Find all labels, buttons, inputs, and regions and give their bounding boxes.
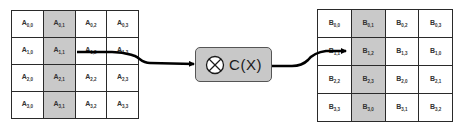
matrix-b-cell: B0,1	[351, 10, 385, 38]
cell-index: 0,1	[368, 23, 374, 28]
cell-index: 1,2	[90, 51, 96, 56]
matrix-b-cell: B1,3	[385, 38, 419, 66]
matrix-b-cell: B0,0	[318, 10, 352, 38]
cell-index: 1,3	[122, 51, 128, 56]
cell-index: 2,0	[27, 78, 33, 83]
cell-index: 1,3	[401, 51, 407, 56]
matrix-a-row: A2,0A2,1A2,2A2,3	[12, 65, 139, 92]
matrix-a-cell: A1,3	[107, 38, 139, 65]
matrix-b-cell: B2,0	[385, 66, 419, 94]
matrix-b-row: B0,0B0,1B0,2B0,3	[318, 10, 453, 38]
matrix-b-cell: B1,0	[419, 38, 453, 66]
cell-index: 0,3	[122, 24, 128, 29]
cell-index: 2,2	[334, 79, 340, 84]
cell-index: 3,1	[401, 107, 407, 112]
matrix-a-cell: A0,0	[12, 11, 44, 38]
matrix-a-row: A1,0A1,1A1,2A1,3	[12, 38, 139, 65]
cell-index: 0,1	[59, 24, 65, 29]
matrix-a: A0,0A0,1A0,2A0,3A1,0A1,1A1,2A1,3A2,0A2,1…	[11, 10, 139, 119]
cell-index: 1,2	[368, 51, 374, 56]
matrix-a-cell: A2,2	[75, 65, 107, 92]
cell-index: 1,0	[27, 51, 33, 56]
matrix-b-row: B2,2B2,3B2,0B2,1	[318, 66, 453, 94]
cell-index: 2,0	[401, 79, 407, 84]
operation-box: C(X)	[195, 47, 272, 82]
cell-index: 0,0	[27, 24, 33, 29]
matrix-b-cell: B2,3	[351, 66, 385, 94]
operation-label: C(X)	[229, 56, 262, 73]
matrix-a-row: A0,0A0,1A0,2A0,3	[12, 11, 139, 38]
matrix-b-cell: B2,2	[318, 66, 352, 94]
cell-index: 0,0	[334, 23, 340, 28]
matrix-a-cell: A3,3	[107, 92, 139, 119]
circled-times-icon	[205, 55, 225, 75]
cell-index: 2,3	[368, 79, 374, 84]
cell-index: 1,1	[334, 51, 340, 56]
cell-index: 3,2	[435, 107, 441, 112]
matrix-a-cell: A1,0	[12, 38, 44, 65]
cell-index: 3,0	[27, 105, 33, 110]
matrix-a-cell: A1,2	[75, 38, 107, 65]
matrix-b-cell: B2,1	[419, 66, 453, 94]
matrix-a-cell: A0,3	[107, 11, 139, 38]
cell-index: 0,3	[435, 23, 441, 28]
matrix-a-row: A3,0A3,1A3,2A3,3	[12, 92, 139, 119]
cell-index: 2,1	[435, 79, 441, 84]
matrix-b: B0,0B0,1B0,2B0,3B1,1B1,2B1,3B1,0B2,2B2,3…	[317, 9, 453, 122]
matrix-b-cell: B1,2	[351, 38, 385, 66]
cell-index: 2,2	[90, 78, 96, 83]
cell-index: 3,1	[59, 105, 65, 110]
matrix-a-cell: A3,1	[43, 92, 75, 119]
matrix-a-cell: A0,1	[43, 11, 75, 38]
matrix-b-row: B3,3B3,0B3,1B3,2	[318, 94, 453, 122]
cell-index: 1,0	[435, 51, 441, 56]
cell-index: 1,1	[59, 51, 65, 56]
matrix-b-cell: B3,2	[419, 94, 453, 122]
matrix-b-cell: B3,0	[351, 94, 385, 122]
matrix-a-cell: A2,3	[107, 65, 139, 92]
cell-index: 3,3	[334, 107, 340, 112]
cell-index: 2,1	[59, 78, 65, 83]
cell-index: 3,2	[90, 105, 96, 110]
matrix-a-cell: A2,1	[43, 65, 75, 92]
matrix-a-cell: A1,1	[43, 38, 75, 65]
cell-index: 3,3	[122, 105, 128, 110]
matrix-a-cell: A2,0	[12, 65, 44, 92]
matrix-a-cell: A3,0	[12, 92, 44, 119]
cell-index: 0,2	[90, 24, 96, 29]
matrix-b-cell: B3,3	[318, 94, 352, 122]
cell-index: 2,3	[122, 78, 128, 83]
matrix-b-cell: B0,3	[419, 10, 453, 38]
matrix-b-cell: B1,1	[318, 38, 352, 66]
matrix-b-row: B1,1B1,2B1,3B1,0	[318, 38, 453, 66]
cell-index: 0,2	[401, 23, 407, 28]
matrix-a-cell: A0,2	[75, 11, 107, 38]
matrix-b-cell: B3,1	[385, 94, 419, 122]
cell-index: 3,0	[368, 107, 374, 112]
matrix-a-cell: A3,2	[75, 92, 107, 119]
matrix-b-cell: B0,2	[385, 10, 419, 38]
